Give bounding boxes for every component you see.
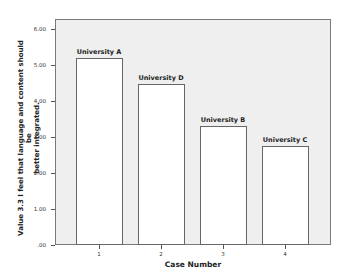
y-tick-label: 3.00 [0,134,52,140]
x-axis-label: Case Number [165,260,221,269]
x-tick-mark [99,245,100,249]
y-tick-mark [51,245,55,246]
y-tick-mark [51,65,55,66]
y-tick-mark [51,209,55,210]
y-tick-label: 2.00 [0,170,52,176]
x-tick-label: 1 [97,251,101,257]
bar-label: University D [138,74,183,82]
bar [200,126,247,245]
bar [138,84,185,245]
y-tick-mark [51,29,55,30]
y-tick-mark [51,137,55,138]
y-tick-label: 1.00 [0,206,52,212]
bar [76,58,123,245]
y-tick-label: 4.00 [0,98,52,104]
x-tick-mark [161,245,162,249]
bar [262,146,309,245]
bar-label: University C [263,136,307,144]
bar-label: University B [201,116,246,124]
x-tick-label: 3 [221,251,225,257]
y-tick-label: 6.00 [0,26,52,32]
bar-chart: Value 3.3 I feel that language and conte… [0,0,348,280]
x-tick-mark [285,245,286,249]
x-tick-label: 2 [159,251,163,257]
y-tick-mark [51,101,55,102]
bar-label: University A [77,48,122,56]
y-tick-label: .00 [0,242,52,248]
x-tick-mark [223,245,224,249]
y-tick-label: 5.00 [0,62,52,68]
x-tick-label: 4 [283,251,287,257]
y-tick-mark [51,173,55,174]
